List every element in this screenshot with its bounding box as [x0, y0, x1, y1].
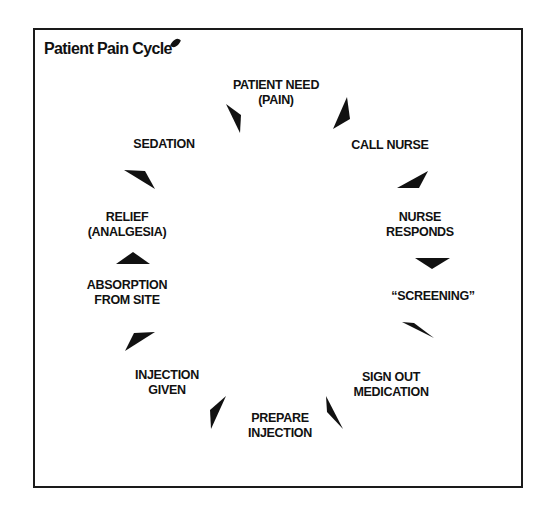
step-label-line: RELIEF: [88, 210, 167, 225]
step-sedation: SEDATION: [133, 137, 194, 152]
arrow-icon: [125, 332, 155, 351]
step-absorption-from-site: ABSORPTIONFROM SITE: [87, 278, 167, 308]
arrow-icon: [402, 322, 434, 338]
arrow-icon: [326, 396, 343, 429]
arrow-icon: [226, 104, 241, 133]
step-label-line: SIGN OUT: [353, 370, 428, 385]
step-label-line: (PAIN): [233, 93, 319, 108]
step-patient-need: PATIENT NEED(PAIN): [233, 78, 319, 108]
step-label-line: MEDICATION: [353, 385, 428, 400]
arrow-icon: [124, 170, 155, 189]
arrow-icon: [116, 252, 150, 264]
step-label-line: GIVEN: [135, 383, 199, 398]
step-prepare-injection: PREPAREINJECTION: [248, 411, 312, 441]
step-label-line: PREPARE: [248, 411, 312, 426]
arrow-icon: [415, 258, 450, 269]
step-label-line: SEDATION: [133, 137, 194, 152]
step-label-line: FROM SITE: [87, 293, 167, 308]
arrow-icon: [333, 97, 350, 129]
step-label-line: ABSORPTION: [87, 278, 167, 293]
step-relief-analgesia: RELIEF(ANALGESIA): [88, 210, 167, 240]
step-label-line: NURSE: [386, 210, 454, 225]
arrow-icon: [210, 396, 226, 429]
step-call-nurse: CALL NURSE: [351, 138, 428, 153]
step-label-line: INJECTION: [248, 426, 312, 441]
step-label-line: CALL NURSE: [351, 138, 428, 153]
step-label-line: INJECTION: [135, 368, 199, 383]
step-label-line: RESPONDS: [386, 225, 454, 240]
step-screening: “SCREENING”: [391, 289, 475, 304]
step-injection-given: INJECTIONGIVEN: [135, 368, 199, 398]
step-sign-out-medication: SIGN OUTMEDICATION: [353, 370, 428, 400]
step-label-line: (ANALGESIA): [88, 225, 167, 240]
arrow-icon: [397, 171, 428, 188]
step-label-line: PATIENT NEED: [233, 78, 319, 93]
step-label-line: “SCREENING”: [391, 289, 475, 304]
step-nurse-responds: NURSERESPONDS: [386, 210, 454, 240]
